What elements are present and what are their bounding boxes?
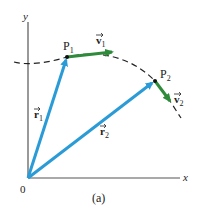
svg-text:v1: v1 <box>96 34 106 49</box>
point-p1-marker <box>65 55 69 59</box>
velocity-label-v1: v1 <box>96 33 106 49</box>
velocity-vector-v1 <box>67 52 112 57</box>
position-vector-r2 <box>28 83 152 178</box>
y-axis-label: y <box>22 10 28 22</box>
velocity-label-v2: v2 <box>174 92 184 108</box>
origin-label: 0 <box>20 183 26 195</box>
position-label-r1: r1 <box>34 107 43 123</box>
svg-text:v2: v2 <box>174 93 184 108</box>
motion-diagram: y x 0 P1 P2 v1 v2 r1 r2 (a) <box>0 0 197 213</box>
position-label-r2: r2 <box>100 124 109 140</box>
figure-caption: (a) <box>92 191 105 205</box>
point-p1-label: P1 <box>63 39 74 55</box>
point-p2-marker <box>153 79 157 83</box>
x-axis-label: x <box>182 171 188 183</box>
point-p2-label: P2 <box>160 67 171 83</box>
velocity-vector-v2 <box>155 81 170 101</box>
